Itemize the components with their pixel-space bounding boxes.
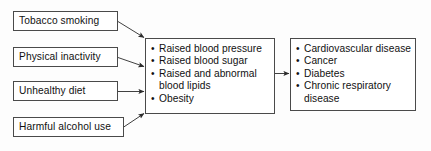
intermediate-risk-factors-box[interactable]: • Raised blood pressure • Raised blood s… bbox=[145, 38, 275, 114]
list-item-line1: Obesity bbox=[159, 93, 194, 104]
bullet-icon: • bbox=[296, 80, 300, 92]
bullet-icon: • bbox=[296, 55, 300, 67]
list-item-line1: Cancer bbox=[304, 55, 337, 66]
risk-factor-label: Harmful alcohol use bbox=[19, 121, 111, 132]
risk-factor-label: Unhealthy diet bbox=[19, 85, 86, 96]
outcomes-list: • Cardiovascular disease • Cancer • Diab… bbox=[296, 43, 410, 105]
bullet-icon: • bbox=[151, 43, 155, 55]
list-item: • Diabetes bbox=[296, 68, 410, 80]
bullet-icon: • bbox=[151, 93, 155, 105]
bullet-icon: • bbox=[296, 43, 300, 55]
bullet-icon: • bbox=[151, 68, 155, 80]
list-item-line1: Chronic respiratory bbox=[304, 80, 391, 91]
bullet-icon: • bbox=[296, 68, 300, 80]
list-item-line2: blood lipids bbox=[159, 80, 269, 92]
risk-factor-box-unhealthy-diet[interactable]: Unhealthy diet bbox=[13, 81, 118, 101]
list-item-line1: Diabetes bbox=[304, 68, 345, 79]
risk-factor-box-physical-inactivity[interactable]: Physical inactivity bbox=[13, 47, 118, 67]
list-item: • Raised and abnormal blood lipids bbox=[151, 68, 269, 93]
list-item-line1: Cardiovascular disease bbox=[304, 43, 411, 54]
bullet-icon: • bbox=[151, 55, 155, 67]
list-item-line1: Raised blood pressure bbox=[159, 43, 262, 54]
outcomes-box[interactable]: • Cardiovascular disease • Cancer • Diab… bbox=[290, 38, 416, 111]
arrow-inactivity-to-intermediate bbox=[118, 58, 144, 67]
intermediate-list: • Raised blood pressure • Raised blood s… bbox=[151, 43, 269, 105]
list-item: • Obesity bbox=[151, 93, 269, 105]
list-item: • Raised blood sugar bbox=[151, 55, 269, 67]
list-item-line2: disease bbox=[304, 93, 410, 105]
diagram-canvas: Tobacco smoking Physical inactivity Unhe… bbox=[0, 0, 431, 151]
risk-factor-label: Tobacco smoking bbox=[19, 15, 99, 26]
list-item: • Chronic respiratory disease bbox=[296, 80, 410, 105]
risk-factor-box-harmful-alcohol-use[interactable]: Harmful alcohol use bbox=[13, 117, 124, 137]
list-item: • Cardiovascular disease bbox=[296, 43, 410, 55]
risk-factor-label: Physical inactivity bbox=[19, 51, 101, 62]
arrow-tobacco-to-intermediate bbox=[118, 22, 144, 38]
list-item: • Cancer bbox=[296, 55, 410, 67]
list-item: • Raised blood pressure bbox=[151, 43, 269, 55]
risk-factor-box-tobacco-smoking[interactable]: Tobacco smoking bbox=[13, 11, 118, 31]
list-item-line1: Raised and abnormal bbox=[159, 68, 257, 79]
list-item-line1: Raised blood sugar bbox=[159, 55, 248, 66]
arrow-alcohol-to-intermediate bbox=[123, 114, 144, 128]
